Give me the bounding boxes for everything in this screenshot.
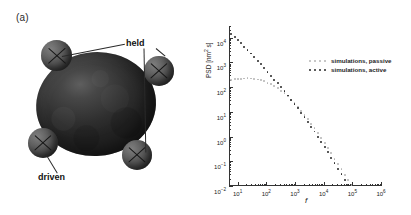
y-axis-minor-tick xyxy=(229,68,231,69)
data-point xyxy=(320,137,322,139)
data-point xyxy=(253,78,255,80)
data-point xyxy=(344,174,346,176)
data-point xyxy=(294,103,296,105)
data-point xyxy=(257,79,259,81)
y-axis-minor-tick xyxy=(229,51,231,52)
y-axis-minor-tick xyxy=(229,90,231,91)
data-point xyxy=(337,168,339,170)
y-axis-minor-tick xyxy=(229,154,231,155)
legend-marker-active xyxy=(307,66,327,73)
y-axis-minor-tick xyxy=(229,122,231,123)
y-axis-minor-tick xyxy=(229,72,231,73)
y-axis-minor-tick xyxy=(229,26,231,27)
y-axis-minor-tick xyxy=(229,48,231,49)
y-axis-tick xyxy=(229,137,233,138)
data-point xyxy=(320,141,322,143)
data-point xyxy=(341,168,343,170)
psd-plot-area: 10110210310410510610−210−110010110210310… xyxy=(229,26,381,186)
x-tick-label: 103 xyxy=(290,189,299,197)
data-point xyxy=(270,83,272,85)
data-point xyxy=(230,79,232,81)
data-point xyxy=(307,118,309,120)
y-axis-minor-tick xyxy=(229,125,231,126)
y-axis-minor-tick xyxy=(229,104,231,105)
x-tick-label: 101 xyxy=(233,189,242,197)
y-axis-minor-tick xyxy=(229,95,231,96)
panel-a-schematic: (a) held driven xyxy=(0,0,205,215)
x-axis-minor-tick xyxy=(255,184,256,186)
y-axis-minor-tick xyxy=(229,93,231,94)
y-axis-minor-tick xyxy=(229,179,231,180)
x-tick-label: 106 xyxy=(376,189,385,197)
x-tick-label: 102 xyxy=(262,189,271,197)
y-axis-minor-tick xyxy=(229,97,231,98)
y-axis-minor-tick xyxy=(229,66,231,67)
y-axis-minor-tick xyxy=(229,113,231,114)
x-axis-tick xyxy=(381,182,382,186)
data-point xyxy=(290,99,292,101)
y-axis-minor-tick xyxy=(229,65,231,66)
y-axis-minor-tick xyxy=(229,100,231,101)
x-axis-minor-tick xyxy=(366,184,367,186)
data-point xyxy=(327,151,329,153)
x-axis-minor-tick xyxy=(370,184,371,186)
data-point xyxy=(267,82,269,84)
y-axis-minor-tick xyxy=(229,55,231,56)
y-tick-label: 103 xyxy=(217,63,226,71)
data-point xyxy=(250,78,252,80)
y-axis-minor-tick xyxy=(229,129,231,130)
data-point xyxy=(253,56,255,58)
data-point xyxy=(247,49,249,51)
data-point xyxy=(330,157,332,159)
y-axis-minor-tick xyxy=(229,64,231,65)
x-axis-minor-tick xyxy=(258,184,259,186)
y-axis-minor-tick xyxy=(229,167,231,168)
bead-held-right xyxy=(144,56,174,86)
x-axis-tick xyxy=(238,182,239,186)
x-axis-tick xyxy=(352,182,353,186)
schematic-drawing: held driven xyxy=(0,0,205,215)
label-driven: driven xyxy=(38,172,65,182)
y-axis-minor-tick xyxy=(229,119,231,120)
y-axis-minor-tick xyxy=(229,42,231,43)
x-axis-minor-tick xyxy=(289,184,290,186)
data-point xyxy=(243,46,245,48)
x-tick-label: 104 xyxy=(319,189,328,197)
y-axis-tick xyxy=(229,112,233,113)
y-axis-tick xyxy=(229,87,233,88)
x-axis-minor-tick xyxy=(304,184,305,186)
data-point xyxy=(307,121,309,123)
data-point xyxy=(263,80,265,82)
legend-item-passive: simulations, passive xyxy=(307,56,392,65)
y-axis-minor-tick xyxy=(229,75,231,76)
x-axis-minor-tick xyxy=(251,184,252,186)
data-point xyxy=(237,78,239,80)
y-axis-tick xyxy=(229,38,233,39)
bead-driven-bottom-right xyxy=(122,140,152,170)
y-axis-minor-tick xyxy=(229,144,231,145)
data-point xyxy=(317,132,319,134)
x-axis-minor-tick xyxy=(275,184,276,186)
y-axis-minor-tick xyxy=(229,30,231,31)
y-tick-label: 104 xyxy=(217,39,226,47)
x-axis-minor-tick xyxy=(332,184,333,186)
x-axis-tick xyxy=(266,182,267,186)
y-axis-minor-tick xyxy=(229,140,231,141)
data-point xyxy=(304,116,306,118)
x-axis-minor-tick xyxy=(317,184,318,186)
data-point xyxy=(270,75,272,77)
data-point xyxy=(341,173,343,175)
data-point xyxy=(260,79,262,81)
legend-marker-passive xyxy=(307,57,327,64)
trap-crosshair-icon xyxy=(28,128,58,158)
data-point xyxy=(280,86,282,88)
y-axis-minor-tick xyxy=(229,70,231,71)
data-point xyxy=(250,53,252,55)
y-axis-minor-tick xyxy=(229,39,231,40)
x-tick-label: 105 xyxy=(348,189,357,197)
x-axis-minor-tick xyxy=(315,184,316,186)
y-axis-minor-tick xyxy=(229,43,231,44)
y-axis-minor-tick xyxy=(229,91,231,92)
data-point xyxy=(280,90,282,92)
data-point xyxy=(344,179,346,181)
